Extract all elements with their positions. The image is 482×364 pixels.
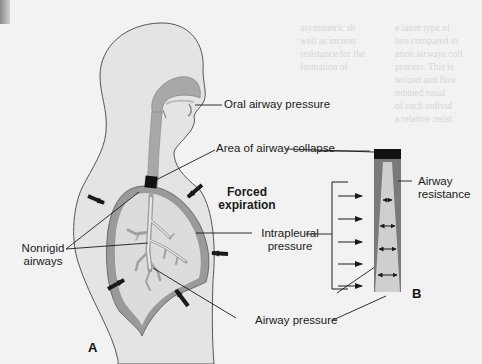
panel-letter-b: B (412, 286, 421, 301)
label-airway-pressure: Airway pressure (255, 314, 337, 327)
intrapleural-pressure-arrows (338, 196, 362, 286)
label-airway-resistance-line1: Airway (418, 175, 470, 188)
label-forced-expiration-line2: expiration (212, 199, 282, 212)
panel-letter-a: A (88, 340, 97, 355)
label-nonrigid-airways: Nonrigid airways (18, 242, 68, 268)
label-airway-resistance-line2: resistance (418, 188, 470, 201)
airway-tube-schematic (0, 0, 482, 364)
airway-tube (374, 149, 401, 292)
label-nonrigid-airways-line1: Nonrigid (18, 242, 68, 255)
label-intrapleural-pressure: Intrapleural pressure (252, 227, 328, 253)
label-intrapleural-pressure-line1: Intrapleural (252, 227, 328, 240)
forced-expiration-figure: asymmetric sh well as increas resistance… (0, 0, 482, 364)
label-oral-airway-pressure: Oral airway pressure (224, 98, 330, 111)
label-area-of-airway-collapse: Area of airway collapse (216, 142, 335, 155)
label-nonrigid-airways-line2: airways (18, 255, 68, 268)
pressure-bracket (332, 182, 348, 289)
label-airway-resistance: Airway resistance (418, 175, 470, 201)
label-forced-expiration: Forced expiration (212, 186, 282, 212)
label-intrapleural-pressure-line2: pressure (252, 240, 328, 253)
